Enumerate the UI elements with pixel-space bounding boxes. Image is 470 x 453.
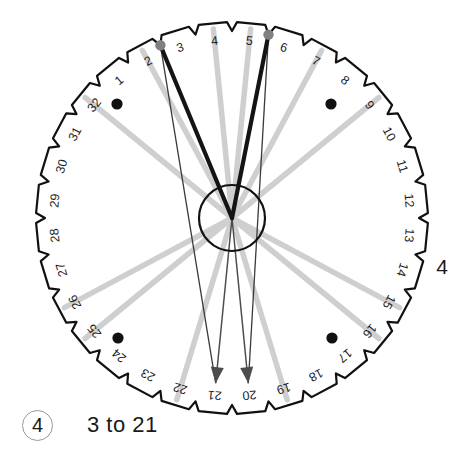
caption: 4 3 to 21 [22, 405, 158, 445]
position-label-21: 21 [207, 387, 222, 402]
marker-dot-bottom-left [112, 332, 123, 343]
caption-badge: 4 [22, 410, 53, 441]
marker-dot-top-left [111, 98, 122, 109]
position-label-28: 28 [47, 228, 62, 243]
wheel-diagram: 1234567891011121314151617181920212223242… [0, 0, 470, 453]
position-label-4: 4 [210, 34, 218, 49]
node-dot-6 [263, 29, 273, 39]
position-label-13: 13 [401, 228, 416, 243]
marker-dot-bottom-right [326, 332, 337, 343]
position-label-20: 20 [242, 387, 257, 402]
page-side-label: 4 [436, 255, 448, 279]
caption-text: 3 to 21 [87, 412, 158, 438]
position-label-12: 12 [401, 193, 416, 208]
dial-svg: 1234567891011121314151617181920212223242… [0, 0, 470, 453]
position-label-5: 5 [245, 34, 253, 49]
position-label-29: 29 [47, 193, 62, 208]
node-dot-3 [155, 40, 165, 50]
marker-dot-top-right [325, 98, 336, 109]
